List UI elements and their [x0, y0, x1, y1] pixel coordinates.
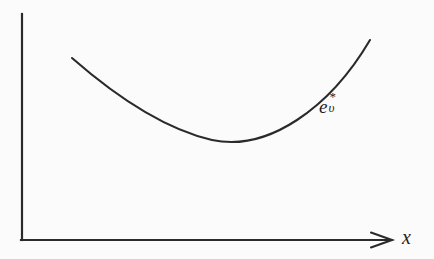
x-axis-label: x [402, 227, 411, 247]
curve-label-scripts: *υ [328, 94, 338, 113]
cost-curve [72, 40, 370, 142]
figure-canvas: e*υ x [0, 0, 434, 259]
plot-area [0, 0, 434, 259]
curve-label: e*υ [319, 94, 338, 116]
curve-label-subscript: υ [328, 101, 334, 114]
curve-label-base: e [319, 96, 327, 117]
